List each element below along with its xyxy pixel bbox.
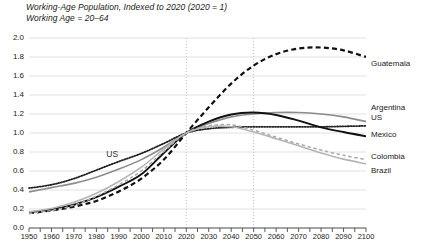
y-axis-tick-label: 0.4	[2, 186, 24, 194]
chart-container: Working-Age Population, Indexed to 2020 …	[0, 0, 435, 243]
y-axis-tick-label: 0.6	[2, 167, 24, 175]
y-axis-tick-label: 0.0	[2, 224, 24, 232]
series-line-brazil	[29, 126, 366, 212]
series-label-guatemala: Guatemala	[371, 59, 410, 68]
series-label-colombia: Colombia	[371, 152, 405, 161]
y-axis-tick-label: 1.8	[2, 53, 24, 61]
series-label-brazil: Brazil	[371, 166, 391, 175]
series-label-argentina: Argentina	[371, 103, 405, 112]
chart-plot-area	[0, 0, 435, 243]
series-line-us	[29, 126, 366, 188]
y-axis-tick-label: 1.0	[2, 129, 24, 137]
y-axis-tick-label: 1.4	[2, 91, 24, 99]
series-label-mexico: Mexico	[371, 130, 396, 139]
series-label-us: US	[371, 113, 382, 122]
inline-annotation-us: US	[106, 149, 118, 159]
y-axis-tick-label: 0.8	[2, 148, 24, 156]
x-axis-tick-label: 2100	[351, 233, 381, 241]
y-axis-tick-label: 0.2	[2, 205, 24, 213]
y-axis-tick-label: 1.6	[2, 72, 24, 80]
y-axis-tick-label: 2.0	[2, 34, 24, 42]
y-axis-tick-label: 1.2	[2, 110, 24, 118]
